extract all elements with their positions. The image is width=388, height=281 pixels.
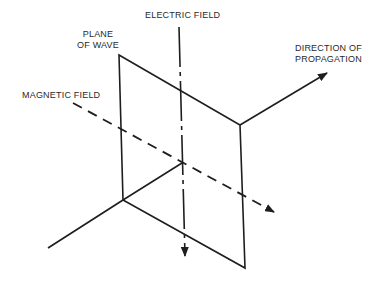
direction-label-line1: DIRECTION OF: [295, 43, 362, 54]
propagation-axis-front: [240, 73, 327, 125]
plane-of-wave-label: PLANE OF WAVE: [73, 29, 123, 51]
direction-label-line2: PROPAGATION: [295, 54, 362, 65]
direction-of-propagation-label: DIRECTION OF PROPAGATION: [295, 43, 362, 65]
propagation-axis-rear: [48, 200, 123, 248]
em-wave-diagram: ELECTRIC FIELD PLANE OF WAVE MAGNETIC FI…: [0, 0, 388, 281]
magnetic-field-axis: [73, 103, 274, 212]
electric-field-axis: [179, 27, 185, 256]
plane-of-wave-label-line1: PLANE: [73, 29, 123, 40]
magnetic-field-label: MAGNETIC FIELD: [22, 90, 100, 101]
electric-field-label: ELECTRIC FIELD: [145, 10, 220, 21]
plane-of-wave-label-line2: OF WAVE: [73, 40, 123, 51]
propagation-axis-inner: [123, 163, 182, 200]
